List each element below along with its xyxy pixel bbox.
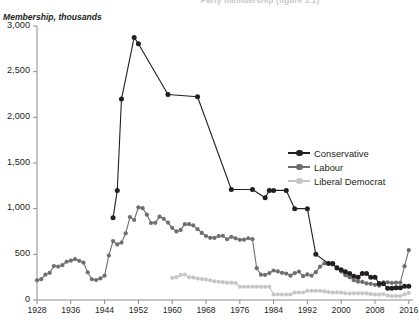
party-membership-chart: Party membership (figure 1.1) Membership…: [0, 0, 419, 320]
legend-item-liberal-democrat[interactable]: Liberal Democrat: [288, 174, 385, 188]
legend-label-conservative: Conservative: [314, 148, 369, 159]
x-axis-tick-label: 2016: [389, 305, 419, 315]
legend-label-labour: Labour: [314, 162, 343, 173]
chart-legend: Conservative Labour Liberal Democrat: [288, 146, 385, 188]
legend-item-conservative[interactable]: Conservative: [288, 146, 385, 160]
legend-label-liberal-democrat: Liberal Democrat: [314, 176, 385, 187]
legend-item-labour[interactable]: Labour: [288, 160, 385, 174]
y-axis-tick-label: 2,000: [0, 111, 30, 121]
legend-marker-liberal-democrat: [288, 176, 310, 186]
y-axis-tick-label: 1,000: [0, 202, 30, 212]
legend-marker-conservative: [288, 148, 310, 158]
y-axis-tick-label: 0: [0, 294, 30, 304]
y-axis-tick-label: 3,000: [0, 20, 30, 30]
legend-marker-labour: [288, 162, 310, 172]
y-axis-tick-label: 500: [0, 248, 30, 258]
y-axis-tick-label: 1,500: [0, 157, 30, 167]
y-axis-tick-label: 2,500: [0, 65, 30, 75]
